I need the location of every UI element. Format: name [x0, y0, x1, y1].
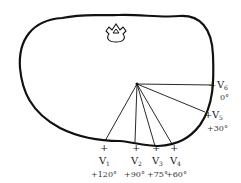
plus-icon: +	[208, 79, 216, 90]
plus-icon: +	[132, 142, 140, 153]
svg-text:3: 3	[159, 160, 163, 167]
lead-v1: + V 1 +120°	[91, 142, 117, 179]
heart-center-point	[136, 83, 139, 86]
plus-icon: +	[100, 142, 108, 153]
lead-line-v4	[137, 84, 172, 144]
plus-icon: +	[152, 142, 160, 153]
svg-text:2: 2	[138, 160, 142, 167]
svg-text:+75°: +75°	[147, 170, 168, 179]
svg-text:0°: 0°	[220, 93, 229, 102]
svg-text:+120°: +120°	[91, 170, 117, 179]
svg-text:+60°: +60°	[166, 170, 187, 179]
svg-text:+90°: +90°	[124, 170, 145, 179]
lead-v4: + V 4 +60°	[166, 142, 187, 179]
lead-line-v2	[135, 84, 137, 142]
lead-v5: + V 5 +30°	[204, 109, 228, 133]
vertebra-icon	[106, 24, 126, 42]
svg-text:4: 4	[177, 160, 181, 167]
svg-text:5: 5	[219, 114, 223, 121]
lead-v3: + V 3 +75°	[147, 142, 168, 179]
lead-lines	[105, 84, 213, 146]
svg-text:6: 6	[224, 84, 228, 91]
svg-text:+30°: +30°	[207, 124, 228, 133]
lead-line-v5	[137, 84, 205, 112]
lead-line-v6	[137, 84, 213, 85]
lead-line-v1	[105, 84, 137, 141]
svg-text:1: 1	[106, 160, 110, 167]
thorax-diagram: + V 6 0° + V 5 +30° + V 1 +120° + V 2 +9…	[0, 0, 241, 183]
lead-v2: + V 2 +90°	[124, 142, 145, 179]
thorax-outline	[20, 15, 214, 146]
plus-icon: +	[170, 142, 178, 153]
lead-line-v3	[137, 84, 155, 146]
